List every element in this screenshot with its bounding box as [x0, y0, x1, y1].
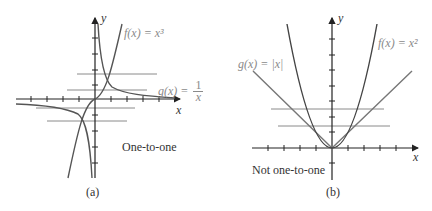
figures-canvas — [0, 0, 432, 211]
caption-b: (b) — [326, 185, 340, 200]
y-axis-label-b: y — [338, 11, 343, 26]
fraction-denominator: x — [196, 92, 201, 103]
caption-a: (a) — [86, 185, 99, 200]
curve-label-g-prefix: g(x) = — [158, 84, 191, 99]
curve-label-f-square: f(x) = x² — [378, 36, 418, 51]
y-axis-label-a: y — [101, 11, 106, 26]
curve-label-g-reciprocal: g(x) = 1 x — [158, 80, 203, 103]
x-axis-label-b: x — [413, 150, 418, 165]
annotation-not-one-to-one: Not one-to-one — [252, 163, 325, 178]
annotation-one-to-one: One-to-one — [122, 140, 177, 155]
curve-g-reciprocal-left — [16, 104, 92, 178]
curve-label-g-abs: g(x) = |x| — [238, 57, 283, 72]
x-axis-label-a: x — [176, 103, 181, 118]
curve-label-f-cubic: f(x) = x³ — [124, 26, 164, 41]
